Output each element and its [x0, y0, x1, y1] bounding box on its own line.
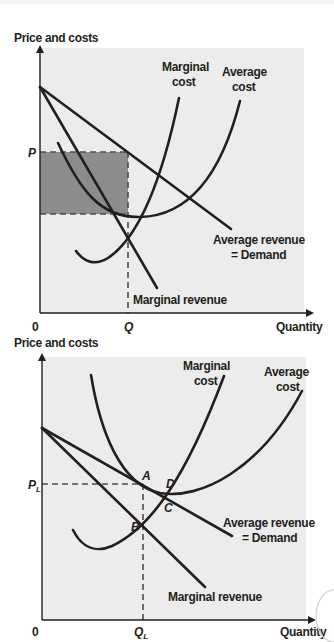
ar-label-line2: = Demand — [231, 248, 286, 262]
ac-label-line2: cost — [276, 380, 300, 394]
mc-label-line1: Marginal — [183, 359, 230, 373]
cropped-caption-remnant — [0, 0, 334, 4]
bottom-chart: Price and costs Quantity 0 PL QL A B C D… — [14, 336, 327, 641]
mc-label-line2: cost — [172, 75, 196, 89]
point-b-label: B — [131, 520, 140, 534]
point-a-label: A — [141, 469, 151, 483]
ac-label-line1: Average — [222, 65, 267, 79]
point-d-label: D — [166, 477, 175, 491]
ar-label-line1: Average revenue — [213, 233, 305, 247]
mr-label: Marginal revenue — [168, 590, 263, 604]
quantity-label: QL — [134, 625, 148, 641]
mr-label: Marginal revenue — [133, 293, 228, 307]
x-axis-label: Quantity — [276, 320, 323, 334]
top-chart: Price and costs Quantity 0 P Q Marginal … — [14, 31, 323, 334]
y-axis-label: Price and costs — [14, 336, 99, 350]
mc-label-line1: Marginal — [162, 60, 209, 74]
ac-label-line1: Average — [264, 365, 309, 379]
point-c-label: C — [164, 501, 173, 515]
monopoly-diagrams: Price and costs Quantity 0 P Q Marginal … — [0, 0, 334, 642]
quantity-label: Q — [124, 320, 134, 334]
mc-label-line2: cost — [194, 374, 218, 388]
y-axis-label: Price and costs — [14, 31, 99, 45]
ar-label-line2: = Demand — [242, 531, 297, 545]
origin-label: 0 — [32, 320, 39, 334]
price-label: PL — [28, 478, 41, 494]
ac-label-line2: cost — [232, 80, 256, 94]
price-label: P — [28, 146, 37, 160]
ar-label-line1: Average revenue — [223, 516, 315, 530]
origin-label: 0 — [32, 625, 39, 639]
